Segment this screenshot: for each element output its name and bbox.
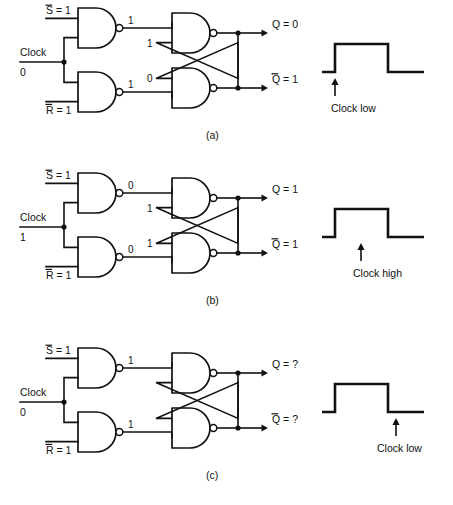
nand-gate-reset-c-inversion-bubble	[116, 429, 123, 436]
wire-crosscouple-qbar-to-q-gate-c	[156, 383, 238, 428]
waveform-trace-a	[322, 44, 424, 72]
output-arrow-q-c	[238, 369, 268, 376]
waveform-trace-c	[322, 384, 424, 412]
wire-clock-to-reset-gate-c	[64, 402, 78, 422]
panel-c: S = 1R = 1Clock011Q = ?Q = ?(c)Clock low	[0, 340, 453, 490]
label-reset-input-c: R = 1	[46, 444, 72, 456]
wire-clock-to-reset-gate-b	[64, 227, 78, 247]
circuit-a: S = 1R = 1Clock01110Q = 0Q = 1(a)Clock l…	[0, 0, 453, 150]
nand-gate-q-b	[172, 178, 217, 218]
label-clock-value-c: 0	[20, 406, 26, 418]
junction-clock-b	[61, 224, 66, 229]
wire-crosscouple-qbar-to-q-gate-a	[156, 43, 238, 88]
nand-gate-reset-b-inversion-bubble	[116, 254, 123, 261]
nand-gate-reset-c	[78, 412, 123, 452]
label-reset-gate-output-b: 0	[128, 244, 134, 255]
junction-clock-a	[61, 59, 66, 64]
output-arrow-q-b	[238, 194, 268, 201]
panel-a: S = 1R = 1Clock01110Q = 0Q = 1(a)Clock l…	[0, 0, 453, 150]
label-feedback-lower-b: 1	[147, 238, 153, 249]
label-output-q-b: Q = 1	[272, 183, 298, 195]
nand-gate-set-c-body	[78, 348, 116, 388]
wire-reset-to-latch-b	[123, 257, 172, 263]
wire-crosscouple-q-to-qbar-gate-c	[156, 373, 238, 418]
nand-gate-set-c	[78, 348, 123, 388]
wire-crosscouple-qbar-to-q-gate-b	[156, 208, 238, 253]
nand-gate-set-a-inversion-bubble	[116, 25, 123, 32]
waveform-arrow-c	[392, 418, 399, 436]
nand-gate-set-a-body	[78, 8, 116, 48]
label-set-input-b: S = 1	[46, 169, 71, 181]
waveform-b: Clock high	[322, 209, 424, 279]
nand-gate-q-c	[172, 353, 217, 393]
waveform-arrow-b	[357, 243, 364, 261]
label-reset-gate-output-c: 1	[128, 419, 134, 430]
nand-gate-q-a-inversion-bubble	[210, 30, 217, 37]
label-reset-input-b: R = 1	[46, 269, 72, 281]
caption-b: (b)	[206, 294, 219, 306]
nand-gate-set-b-inversion-bubble	[116, 190, 123, 197]
label-clock-value-a: 0	[20, 66, 26, 78]
nand-gate-qbar-a-body	[172, 68, 210, 108]
label-clock-a: Clock	[20, 46, 47, 58]
circuit-c: S = 1R = 1Clock011Q = ?Q = ?(c)Clock low	[0, 340, 453, 490]
label-output-qbar-c: Q = ?	[272, 413, 298, 425]
wire-reset-to-latch-a	[123, 92, 172, 98]
nand-gate-set-c-inversion-bubble	[116, 365, 123, 372]
panel-b: S = 1R = 1Clock10011Q = 1Q = 1(b)Clock h…	[0, 165, 453, 315]
nand-gate-qbar-b-inversion-bubble	[210, 250, 217, 257]
wire-crosscouple-q-to-qbar-gate-b	[156, 198, 238, 243]
label-set-gate-output-a: 1	[128, 15, 134, 26]
nand-gate-q-c-inversion-bubble	[210, 370, 217, 377]
label-output-qbar-b: Q = 1	[272, 238, 298, 250]
output-arrow-qbar-c	[238, 424, 268, 431]
caption-a: (a)	[206, 129, 219, 141]
nand-gate-reset-b-body	[78, 237, 116, 277]
nand-gate-q-b-inversion-bubble	[210, 195, 217, 202]
nand-gate-qbar-c-inversion-bubble	[210, 425, 217, 432]
label-reset-input-a: R = 1	[46, 104, 72, 116]
label-feedback-upper-a: 1	[147, 38, 153, 49]
nand-gate-q-a	[172, 13, 217, 53]
label-output-q-a: Q = 0	[272, 18, 298, 30]
nand-gate-reset-a-body	[78, 72, 116, 112]
nand-gate-set-b-body	[78, 173, 116, 213]
wire-reset-to-latch-c	[123, 432, 172, 438]
waveform-trace-b	[322, 209, 424, 237]
nand-gate-q-b-body	[172, 178, 210, 218]
label-reset-gate-output-a: 1	[128, 79, 134, 90]
output-arrow-q-a	[238, 29, 268, 36]
label-clock-value-b: 1	[20, 231, 26, 243]
wire-clock-to-reset-gate-a	[64, 62, 78, 82]
waveform-annotation-c: Clock low	[377, 442, 422, 454]
waveform-annotation-a: Clock low	[331, 102, 376, 114]
label-feedback-upper-b: 1	[147, 203, 153, 214]
circuit-b: S = 1R = 1Clock10011Q = 1Q = 1(b)Clock h…	[0, 165, 453, 315]
nand-gate-set-a	[78, 8, 123, 48]
label-output-q-c: Q = ?	[272, 358, 298, 370]
nand-gate-qbar-c	[172, 408, 217, 448]
wire-crosscouple-q-to-qbar-gate-a	[156, 33, 238, 78]
nand-gate-qbar-a	[172, 68, 217, 108]
nand-gate-qbar-b	[172, 233, 217, 273]
wire-clock-to-set-gate-c	[64, 378, 78, 402]
label-set-gate-output-b: 0	[128, 180, 134, 191]
output-arrow-qbar-b	[238, 249, 268, 256]
label-set-gate-output-c: 1	[128, 355, 134, 366]
wire-clock-to-set-gate-b	[64, 203, 78, 227]
nand-gate-reset-c-body	[78, 412, 116, 452]
waveform-a: Clock low	[322, 44, 424, 114]
nand-gate-reset-a	[78, 72, 123, 112]
wire-clock-to-set-gate-a	[64, 38, 78, 62]
nand-gate-qbar-c-body	[172, 408, 210, 448]
output-arrow-qbar-a	[238, 84, 268, 91]
label-clock-c: Clock	[20, 386, 47, 398]
junction-clock-c	[61, 399, 66, 404]
caption-c: (c)	[206, 469, 218, 481]
nand-gate-reset-b	[78, 237, 123, 277]
label-set-input-c: S = 1	[46, 344, 71, 356]
label-set-input-a: S = 1	[46, 4, 71, 16]
waveform-c: Clock low	[322, 384, 424, 454]
nand-gate-set-b	[78, 173, 123, 213]
nand-gate-qbar-a-inversion-bubble	[210, 85, 217, 92]
